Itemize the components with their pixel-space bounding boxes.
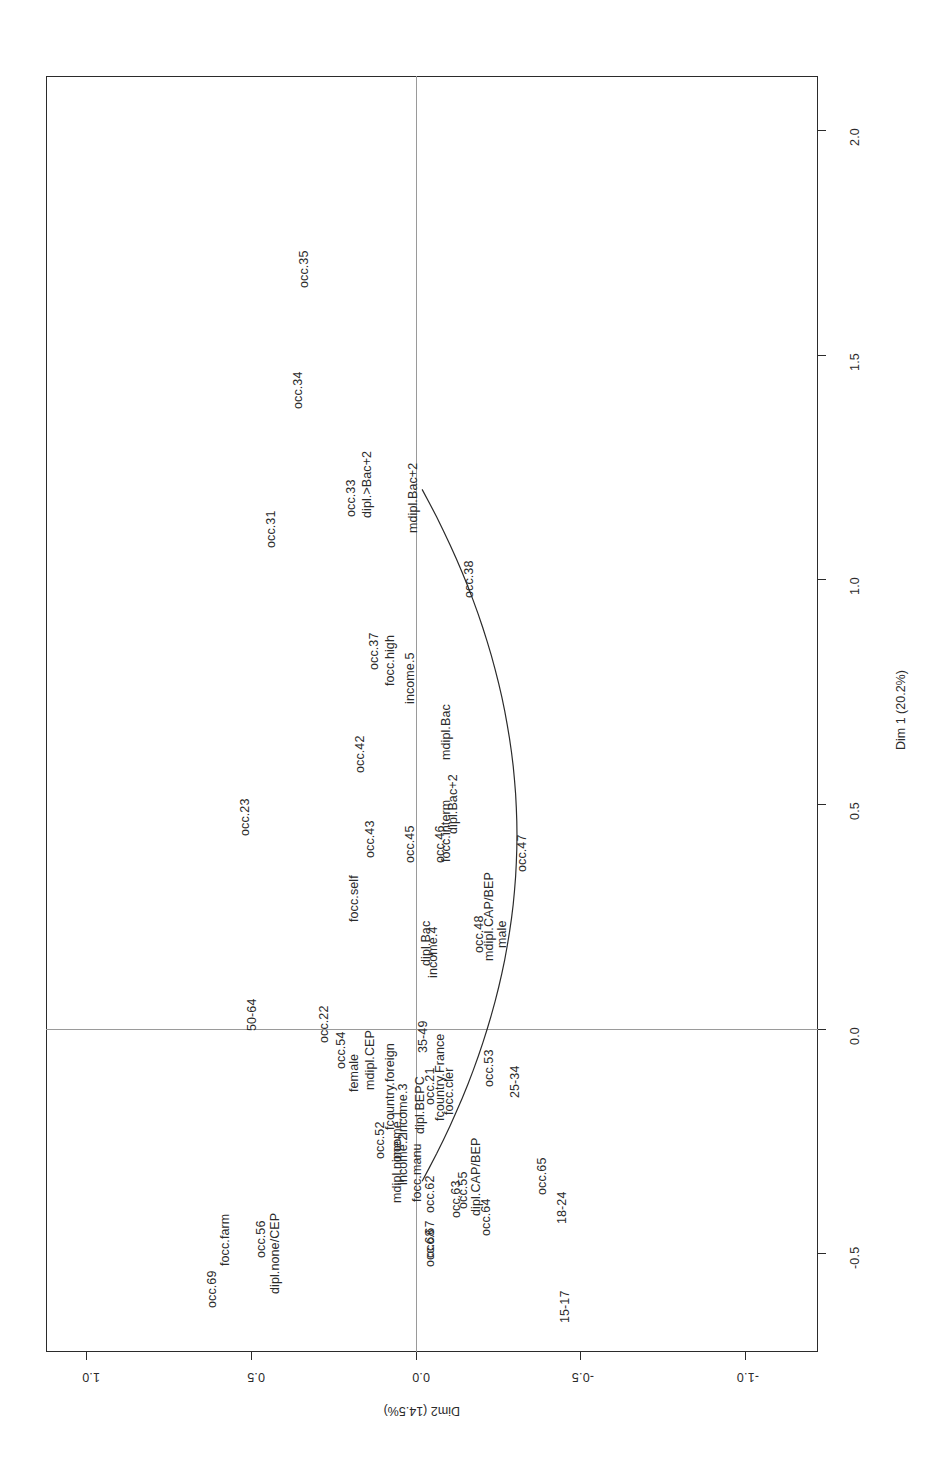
data-point-label: dipl.>Bac+2	[361, 451, 374, 518]
tick-dim1	[818, 1029, 826, 1030]
tick-label-dim1: 0.0	[848, 1027, 862, 1045]
data-point-label: occ.46	[434, 825, 447, 862]
data-point-label: 15-17	[559, 1291, 572, 1323]
data-point-label: occ.23	[239, 798, 252, 835]
data-point-label: income.5	[404, 653, 417, 705]
data-point-label: focc.high	[384, 635, 397, 686]
data-point-label: 35-49	[417, 1021, 430, 1053]
data-point-label: occ.37	[368, 632, 381, 669]
tick-label-dim1: 2.0	[848, 128, 862, 146]
tick-label-dim2: 1.0	[82, 1370, 100, 1384]
data-point-label: male	[496, 921, 509, 949]
data-point-label: female	[348, 1054, 361, 1092]
data-point-label: occ.55	[457, 1171, 470, 1208]
data-point-label: focc.farm	[219, 1213, 232, 1265]
data-point-label: occ.33	[345, 479, 358, 516]
data-point-label: occ.56	[255, 1221, 268, 1258]
data-point-label: occ.47	[516, 834, 529, 871]
data-point-label: fcountry.foreign	[384, 1044, 397, 1131]
tick-label-dim1: 0.5	[848, 802, 862, 820]
data-point-label: focc.self	[348, 875, 361, 922]
tick-dim2	[580, 1352, 581, 1360]
tick-dim1	[818, 1253, 826, 1254]
data-point-label: occ.34	[292, 372, 305, 409]
plot-frame	[46, 76, 818, 1352]
data-point-label: occ.45	[404, 825, 417, 862]
data-point-label: dipl.CAP/BEP	[470, 1137, 483, 1215]
data-point-label: 50-64	[246, 999, 259, 1031]
data-point-label: occ.62	[424, 1176, 437, 1213]
axis-title-dim2: Dim2 (14.5%)	[384, 1404, 460, 1418]
tick-dim2	[745, 1352, 746, 1360]
data-point-label: mdipl.Bac	[440, 704, 453, 760]
data-point-label: dipl.none/CEP	[269, 1212, 282, 1293]
mca-factor-map: 0.51.01.52.00.0-0.51.00.50.0-0.5-1.0 Dim…	[0, 0, 951, 1473]
data-point-label: 18-24	[556, 1192, 569, 1224]
data-point-label: occ.22	[318, 1005, 331, 1042]
data-point-label: income.4	[427, 927, 440, 979]
tick-label-dim2: -1.0	[737, 1370, 759, 1384]
tick-dim1	[818, 579, 826, 580]
tick-label-dim1: -0.5	[848, 1247, 862, 1269]
data-point-label: occ.53	[483, 1050, 496, 1087]
tick-label-dim2: -0.5	[572, 1370, 594, 1384]
data-point-label: occ.65	[536, 1158, 549, 1195]
data-point-label: mdipl.Bac+2	[407, 463, 420, 533]
data-point-label: occ.69	[206, 1270, 219, 1307]
data-point-label: focc.cler	[443, 1067, 456, 1114]
data-point-label: mdipl.CAP/BEP	[483, 872, 496, 961]
data-point-label: occ.68	[424, 1230, 437, 1267]
tick-label-dim1: 1.5	[848, 353, 862, 371]
data-point-label: occ.42	[354, 735, 367, 772]
tick-dim2	[251, 1352, 252, 1360]
tick-label-dim2: 0.0	[412, 1370, 430, 1384]
data-point-label: income.3	[397, 1084, 410, 1136]
tick-label-dim1: 1.0	[848, 577, 862, 595]
tick-dim2	[416, 1352, 417, 1360]
data-point-label: mdipl.CEP	[364, 1030, 377, 1090]
data-point-label: 25-34	[509, 1066, 522, 1098]
data-point-label: focc.manu	[411, 1143, 424, 1202]
tick-label-dim2: 0.5	[247, 1370, 265, 1384]
tick-dim1	[818, 130, 826, 131]
data-point-label: occ.35	[298, 250, 311, 287]
tick-dim1	[818, 804, 826, 805]
tick-dim1	[818, 355, 826, 356]
axis-title-dim1: Dim 1 (20.2%)	[894, 670, 908, 750]
zero-line-dim1	[46, 1029, 818, 1030]
data-point-label: occ.54	[335, 1032, 348, 1069]
data-point-label: occ.38	[463, 560, 476, 597]
data-point-label: occ.31	[265, 511, 278, 548]
data-point-label: occ.43	[364, 821, 377, 858]
tick-dim2	[86, 1352, 87, 1360]
